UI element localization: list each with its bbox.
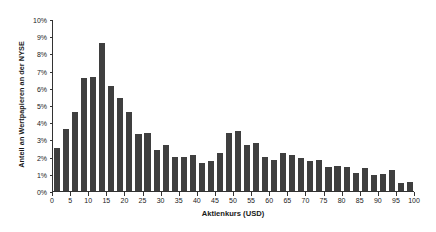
x-axis-tick-label: 90	[374, 197, 382, 204]
x-axis-tick-label: 75	[320, 197, 328, 204]
x-axis-tick-label: 70	[301, 197, 309, 204]
x-axis-tick-label: 35	[175, 197, 183, 204]
bar	[126, 112, 132, 191]
bar	[226, 133, 232, 191]
x-axis-tick-label: 95	[392, 197, 400, 204]
y-axis-tick-labels: 0%1%2%3%4%5%6%7%8%9%10%	[26, 14, 50, 194]
y-axis-tick-label: 10%	[33, 17, 47, 24]
bar	[334, 166, 340, 191]
x-axis-tick-mark	[106, 192, 107, 196]
bar	[244, 145, 250, 191]
x-axis-tick-mark	[269, 192, 270, 196]
x-axis-tick-label: 0	[50, 197, 54, 204]
bar	[344, 167, 350, 191]
y-axis-tick-mark	[50, 89, 54, 90]
bar	[271, 160, 277, 191]
bar	[217, 153, 223, 191]
y-axis-tick-label: 2%	[37, 154, 47, 161]
bar	[181, 157, 187, 191]
bar	[90, 77, 96, 191]
bar	[172, 157, 178, 191]
y-axis-tick-mark	[50, 54, 54, 55]
x-axis-tick-mark	[70, 192, 71, 196]
y-axis-tick-label: 9%	[37, 34, 47, 41]
bar	[371, 175, 377, 191]
bar	[253, 143, 259, 191]
y-axis-tick-mark	[50, 123, 54, 124]
x-axis-tick-mark	[342, 192, 343, 196]
bar	[407, 182, 413, 191]
y-axis-tick-label: 7%	[37, 68, 47, 75]
x-axis-tick-label: 15	[102, 197, 110, 204]
plot-area	[52, 20, 414, 192]
x-axis-tick-label: 40	[193, 197, 201, 204]
bar	[362, 168, 368, 191]
bar-series	[53, 20, 414, 191]
bar	[108, 86, 114, 191]
bar	[99, 43, 105, 191]
x-axis-tick-mark	[161, 192, 162, 196]
x-axis-tick-label: 60	[265, 197, 273, 204]
x-axis-tick-mark	[360, 192, 361, 196]
bar	[144, 133, 150, 191]
y-axis-tick-label: 0%	[37, 189, 47, 196]
y-axis-tick-label: 5%	[37, 103, 47, 110]
bar	[63, 129, 69, 191]
x-axis-tick-mark	[197, 192, 198, 196]
bar	[380, 174, 386, 191]
y-axis-tick-mark	[50, 140, 54, 141]
x-axis-tick-label: 55	[247, 197, 255, 204]
bar	[325, 167, 331, 191]
bar	[398, 183, 404, 191]
x-axis-tick-mark	[378, 192, 379, 196]
x-axis-tick-mark	[251, 192, 252, 196]
y-axis-tick-mark	[50, 106, 54, 107]
x-axis-tick-mark	[88, 192, 89, 196]
x-axis-tick-mark	[215, 192, 216, 196]
x-axis-tick-mark	[179, 192, 180, 196]
x-axis-tick-label: 10	[84, 197, 92, 204]
bar	[353, 173, 359, 191]
x-axis-tick-label: 30	[157, 197, 165, 204]
y-axis-tick-mark	[50, 20, 54, 21]
histogram-figure: Anteil an Wertpapieren an der NYSE 0%1%2…	[0, 0, 436, 232]
bar	[235, 131, 241, 191]
y-axis-tick-mark	[50, 72, 54, 73]
x-axis-tick-mark	[52, 192, 53, 196]
y-axis-tick-label: 8%	[37, 51, 47, 58]
x-axis-tick-label: 65	[283, 197, 291, 204]
bar	[199, 163, 205, 191]
bar	[298, 158, 304, 191]
bar	[262, 157, 268, 191]
bar	[280, 153, 286, 191]
x-axis-tick-mark	[324, 192, 325, 196]
bar	[389, 170, 395, 192]
bar	[208, 161, 214, 191]
bar	[190, 155, 196, 191]
y-axis-tick-mark	[50, 175, 54, 176]
bar	[135, 134, 141, 191]
x-axis-tick-label: 85	[356, 197, 364, 204]
x-axis-tick-label: 100	[408, 197, 420, 204]
x-axis-tick-label: 5	[68, 197, 72, 204]
x-axis-tick-mark	[414, 192, 415, 196]
y-axis-tick-mark	[50, 158, 54, 159]
bar	[289, 155, 295, 191]
x-axis-tick-mark	[124, 192, 125, 196]
x-axis-tick-label: 80	[338, 197, 346, 204]
x-axis-tick-mark	[287, 192, 288, 196]
bar	[54, 148, 60, 191]
x-axis-tick-mark	[396, 192, 397, 196]
x-axis-title: Aktienkurs (USD)	[52, 209, 414, 218]
x-axis-tick-mark	[143, 192, 144, 196]
y-axis-title-text: Anteil an Wertpapieren an der NYSE	[17, 41, 26, 168]
y-axis-tick-label: 6%	[37, 85, 47, 92]
bar	[316, 160, 322, 191]
bar	[163, 145, 169, 191]
bar	[117, 98, 123, 191]
bar	[81, 78, 87, 191]
y-axis-tick-mark	[50, 37, 54, 38]
y-axis-tick-label: 1%	[37, 171, 47, 178]
x-axis-tick-label: 25	[139, 197, 147, 204]
x-axis-tick-label: 45	[211, 197, 219, 204]
